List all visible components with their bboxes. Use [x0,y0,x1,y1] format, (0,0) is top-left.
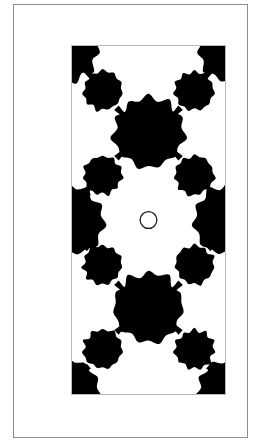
pattern-panel [71,45,226,395]
outer-frame [13,4,248,438]
pattern-graphic [72,46,225,394]
figure-root: Symmetric binary blob pattern figure Sca… [0,0,261,445]
